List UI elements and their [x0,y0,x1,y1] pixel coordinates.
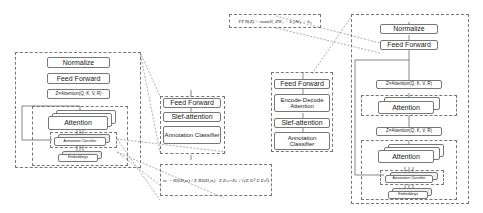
feed-forward-box: Feed Forward [274,79,330,89]
attention-bottom-box: Attention [378,150,434,163]
self-attention-box: Slef-attention [163,112,221,122]
z-attention-box: Z=Attention(Q, K, V, R) [47,89,110,99]
z-attention-bottom-box: Z=Attention(Q, K, V, R) [376,127,442,136]
normalize-box: Normalize [380,24,438,34]
feed-forward-box: Feed Forward [380,40,438,50]
embeddings-box: Embeddings [388,191,428,199]
attention-box: Attention [48,116,108,130]
feed-forward-box: Feed Forward [163,98,221,108]
annotation-classifier-box: Annotation Classifier [274,132,330,150]
annotation-classifier-box: Annotation Classifier [54,137,106,146]
attention-top-box: Attention [378,101,434,114]
z-attention-top-box: Z=Attention(Q, K, V, R) [376,80,442,89]
annotation-classifier-box: Annotation Classifier [385,175,433,183]
normalize-box: Normalize [47,57,110,68]
annotation-classifier-box: Annotation Classifier [163,126,221,144]
embeddings-box: Embeddings [58,154,98,162]
ffn-formula: FFN(Z) = max(0, ZW₁ + b₁)W₂ + b₂ [229,14,321,28]
encode-decode-attention-box: Encode-Decode Attention [274,94,330,112]
feed-forward-box: Feed Forward [47,73,110,84]
self-attention-box: Slef-attention [274,118,330,128]
weight-formula: wᵢ = RS(D,σᵢ) / Σ RS(D,σᵢ) · Σ Eᵢₖ×Eₖ / … [160,164,272,196]
